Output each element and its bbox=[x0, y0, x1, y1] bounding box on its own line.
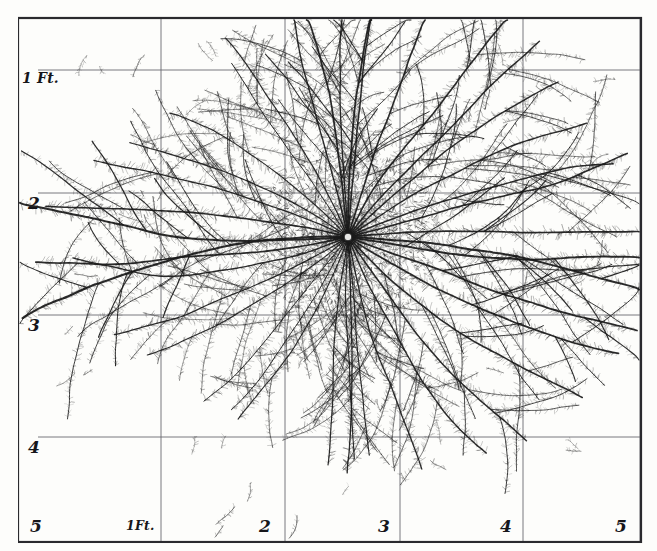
x-axis-tick-label-3: 3 bbox=[378, 516, 390, 536]
bottom-margin-mask bbox=[0, 543, 657, 551]
y-axis-tick-label-2: 3 bbox=[28, 315, 40, 335]
x-axis-tick-label-0: 5 bbox=[30, 516, 42, 536]
root-illustration-canvas bbox=[0, 0, 657, 551]
root-system-figure bbox=[0, 0, 657, 551]
x-axis-tick-label-4: 4 bbox=[500, 516, 512, 536]
y-axis-tick-label-1: 2 bbox=[28, 193, 40, 213]
y-axis-tick-label-3: 4 bbox=[28, 437, 40, 457]
x-axis-tick-label-5: 5 bbox=[615, 516, 627, 536]
left-margin-mask bbox=[0, 0, 18, 551]
x-axis-tick-label-1: 1Ft. bbox=[126, 518, 155, 533]
crown-center bbox=[344, 233, 352, 241]
x-axis-tick-label-2: 2 bbox=[259, 516, 271, 536]
y-axis-tick-label-0: 1 Ft. bbox=[22, 70, 59, 86]
